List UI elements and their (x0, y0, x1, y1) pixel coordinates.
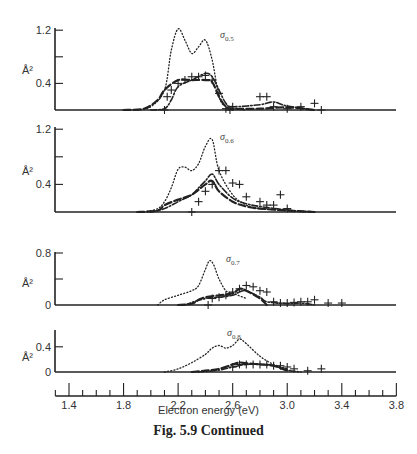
panel-sigma-label: σ0.7 (226, 253, 240, 267)
panel-sigma-label: σ0.8 (227, 327, 241, 341)
y-axis-label: Å² (22, 351, 33, 363)
y-axis-label: Å² (22, 165, 33, 177)
y-tick-label: 0 (45, 299, 51, 311)
panel-4: 0.40Å²σ0.8 (22, 327, 396, 378)
y-tick-label: 1.2 (36, 123, 51, 135)
panel-3: 0.80Å²σ0.7 (22, 247, 396, 311)
y-axis-label: Å² (22, 277, 33, 289)
panel-sigma-label: σ0.5 (220, 29, 234, 43)
panel-1: 1.20.4Å²σ0.5 (22, 24, 396, 114)
chart-panels: 1.20.4Å²σ0.51.20.4Å²σ0.60.80Å²σ0.70.40Å²… (22, 24, 396, 378)
panel-sigma-label: σ0.6 (220, 131, 234, 145)
x-axis-label: Electron energy (eV) (0, 404, 417, 416)
y-axis-label: Å² (22, 64, 33, 76)
dotted-curve (144, 138, 315, 212)
figure-canvas: 1.20.4Å²σ0.51.20.4Å²σ0.60.80Å²σ0.70.40Å²… (0, 0, 417, 454)
figure-caption: Fig. 5.9 Continued (0, 423, 417, 439)
y-tick-label: 0.4 (36, 178, 51, 190)
y-tick-label: 0.4 (36, 341, 51, 353)
y-tick-label: 0 (45, 366, 51, 378)
y-tick-label: 0.4 (36, 77, 51, 89)
experimental-points (160, 71, 325, 114)
y-tick-label: 0.8 (36, 247, 51, 259)
y-tick-label: 1.2 (36, 24, 51, 36)
panel-2: 1.20.4Å²σ0.6 (22, 123, 396, 216)
